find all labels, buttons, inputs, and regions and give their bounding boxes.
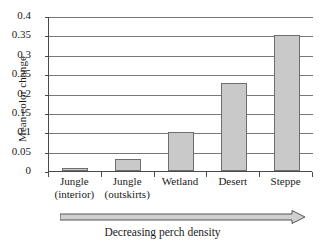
y-axis-tick-label: 0.15 [0, 106, 31, 118]
bar-slot [49, 16, 102, 171]
bar[interactable] [274, 35, 300, 171]
bar[interactable] [221, 83, 247, 171]
x-axis-category-label-line: (outskirts) [93, 188, 162, 201]
bar[interactable] [168, 132, 194, 171]
bar-chart-figure: Mean color change 00.050.10.150.20.250.3… [0, 0, 325, 245]
y-axis-tick-label: 0.05 [0, 145, 31, 157]
y-axis-tick-label: 0.25 [0, 67, 31, 79]
bar-slot [155, 16, 208, 171]
y-axis-tick-label: 0.3 [0, 48, 31, 60]
y-axis-tick-label: 0 [0, 164, 31, 176]
plot-area: 00.050.10.150.20.250.30.350.4 [48, 17, 312, 172]
x-axis-category-label: Steppe [251, 175, 320, 188]
bar-slot [260, 16, 313, 171]
bar[interactable] [62, 168, 88, 171]
y-axis-tick-label: 0.1 [0, 125, 31, 137]
y-axis-tick-label: 0.4 [0, 9, 31, 21]
bar-slot [207, 16, 260, 171]
bar[interactable] [115, 159, 141, 171]
x-axis-title: Decreasing perch density [0, 226, 325, 238]
bar-slot [102, 16, 155, 171]
y-axis-tick-label: 0.35 [0, 28, 31, 40]
decreasing-perch-density-arrow-icon [60, 210, 306, 224]
x-axis-category-label-line: Steppe [251, 175, 320, 188]
y-axis-tick-label: 0.2 [0, 87, 31, 99]
